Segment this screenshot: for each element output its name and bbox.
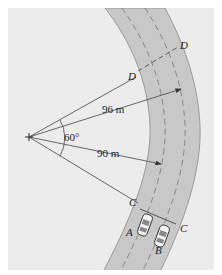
radius-arrow-90 [29, 137, 161, 164]
label-C-inner: C [129, 196, 137, 208]
label-C-outer: C [180, 222, 188, 234]
label-D-inner: D [127, 70, 136, 82]
label-radius-90: 90 m [97, 147, 120, 159]
road-diagram: D D C C A B 96 m 90 m 60° [0, 0, 222, 275]
label-angle: 60° [64, 131, 79, 143]
radial-line-C [29, 137, 138, 203]
label-car-A: A [125, 226, 133, 238]
label-radius-96: 96 m [102, 103, 125, 115]
label-car-B: B [155, 244, 162, 256]
label-D-outer: D [179, 39, 188, 51]
